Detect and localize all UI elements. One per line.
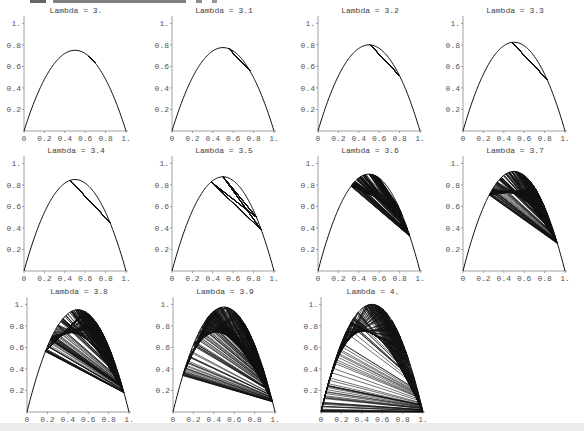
x-tick-label: 0.8 [246,274,261,283]
bottom-band [0,423,584,431]
x-tick-label: 0 [461,134,466,143]
chart-panel-9: Lambda = 3.900.20.40.60.81.0.20.40.60.81… [149,287,289,425]
x-tick-label: 1. [269,274,279,283]
y-tick-label: 0.2 [301,105,316,114]
chart-plot: 00.20.40.60.81.0.20.40.60.81. [3,287,143,425]
x-tick-label: 0.4 [206,274,221,283]
iteration-chords [211,177,261,230]
iteration-chords [512,42,547,79]
y-tick-label: 0.8 [301,181,316,190]
x-tick-label: 0.2 [476,134,491,143]
x-tick-label: 0.8 [537,134,552,143]
y-tick-label: 0.2 [7,245,22,254]
y-tick-label: 0.6 [301,202,316,211]
y-tick-label: 0.8 [10,322,25,331]
iteration-chords [370,45,399,76]
iteration-chords [183,307,273,402]
chart-plot: 00.20.40.60.81.0.20.40.60.81. [294,6,434,144]
x-tick-label: 0.8 [392,274,407,283]
logistic-curve [24,50,126,131]
chart-plot: 00.20.40.60.81.0.20.40.60.81. [0,146,140,284]
chart-plot: 00.20.40.60.81.0.20.40.60.81. [149,287,289,425]
y-tick-label: 0.6 [155,62,170,71]
y-tick-label: 0.6 [10,343,25,352]
chart-plot: 00.20.40.60.81.0.20.40.60.81. [439,6,579,144]
chart-panel-1: Lambda = 3.100.20.40.60.81.0.20.40.60.81… [148,6,288,144]
logistic-curve [463,42,565,131]
x-tick-label: 0.4 [497,274,512,283]
x-tick-label: 0.2 [185,274,200,283]
x-tick-label: 0 [22,274,27,283]
iteration-chords [229,49,250,71]
y-tick-label: 0.2 [301,245,316,254]
x-tick-label: 1. [560,274,570,283]
x-tick-label: 0 [316,274,321,283]
x-tick-label: 0.2 [37,274,52,283]
chart-plot: 00.20.40.60.81.0.20.40.60.81. [294,146,434,284]
y-tick-label: 0.4 [10,365,25,374]
y-tick-label: 0.8 [155,41,170,50]
x-tick-label: 0 [170,134,175,143]
chart-panel-10: Lambda = 4.00.20.40.60.81.0.20.40.60.81. [297,287,437,425]
y-tick-label: 0.4 [7,224,22,233]
y-tick-label: 0.2 [7,105,22,114]
y-tick-label: 0.6 [156,343,171,352]
y-tick-label: 0.4 [156,365,171,374]
x-tick-label: 0.8 [246,134,261,143]
x-tick-label: 0 [461,274,466,283]
y-tick-label: 0.2 [156,386,171,395]
chart-plot: 00.20.40.60.81.0.20.40.60.81. [297,287,437,425]
x-tick-label: 0.6 [78,274,93,283]
x-tick-label: 0.4 [58,134,73,143]
y-tick-label: 0.8 [156,322,171,331]
y-tick-label: 1. [305,159,315,168]
logistic-curve [172,48,274,131]
y-tick-label: 0.4 [301,84,316,93]
y-tick-label: 1. [11,159,21,168]
y-tick-label: 0.4 [446,84,461,93]
chart-panel-0: Lambda = 3.00.20.40.60.81.0.20.40.60.81. [0,6,140,144]
x-tick-label: 0.6 [517,274,532,283]
chart-panel-4: Lambda = 3.400.20.40.60.81.0.20.40.60.81… [0,146,140,284]
y-tick-label: 0.2 [155,245,170,254]
x-tick-label: 0 [22,134,27,143]
y-tick-label: 1. [14,300,24,309]
y-tick-label: 0.4 [301,224,316,233]
y-tick-label: 0.2 [446,245,461,254]
y-tick-label: 0.4 [155,84,170,93]
y-tick-label: 0.8 [446,181,461,190]
y-tick-label: 0.8 [7,181,22,190]
x-tick-label: 0.4 [352,274,367,283]
logistic-curve [318,45,420,131]
x-tick-label: 0.8 [98,274,113,283]
y-tick-label: 0.4 [155,224,170,233]
y-tick-label: 0.6 [304,343,319,352]
iteration-chords [321,304,423,412]
x-tick-label: 0.6 [226,274,241,283]
y-tick-label: 0.6 [446,202,461,211]
x-tick-label: 0.2 [331,134,346,143]
x-tick-label: 0.2 [331,274,346,283]
chart-plot: 00.20.40.60.81.0.20.40.60.81. [439,146,579,284]
y-tick-label: 0.8 [301,41,316,50]
y-tick-label: 0.4 [304,365,319,374]
iteration-chords [351,174,410,236]
y-tick-label: 1. [308,300,318,309]
chart-plot: 00.20.40.60.81.0.20.40.60.81. [0,6,140,144]
x-tick-label: 1. [121,134,131,143]
iteration-chords [45,310,123,393]
cutoff-text-fragment [30,0,290,3]
x-tick-label: 0.2 [476,274,491,283]
y-tick-label: 0.2 [446,105,461,114]
chart-panel-7: Lambda = 3.700.20.40.60.81.0.20.40.60.81… [439,146,579,284]
x-tick-label: 1. [269,134,279,143]
y-tick-label: 0.6 [7,62,22,71]
y-tick-label: 0.8 [7,41,22,50]
y-tick-label: 1. [159,159,169,168]
x-tick-label: 0.6 [372,274,387,283]
x-tick-label: 0.4 [58,274,73,283]
chart-plot: 00.20.40.60.81.0.20.40.60.81. [148,146,288,284]
logistic-curve [24,180,126,271]
iteration-chords [70,180,110,222]
y-tick-label: 1. [305,19,315,28]
